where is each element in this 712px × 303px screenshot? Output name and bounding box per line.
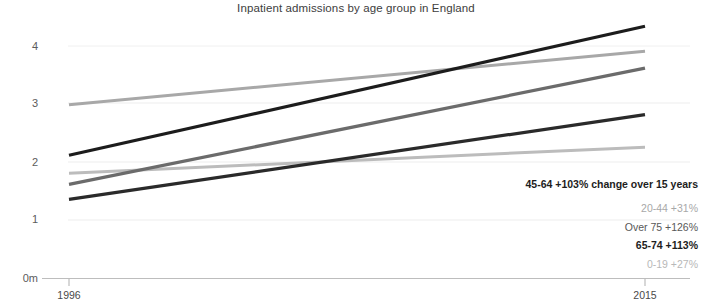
legend-label-65-74: 65-74 +113% <box>636 239 698 251</box>
y-tick-label-0m: 0m <box>2 273 38 284</box>
legend-item-over-75[interactable]: Over 75 +126% <box>520 222 706 233</box>
y-tick-label-3: 3 <box>2 98 38 109</box>
y-tick-label-2: 2 <box>2 157 38 168</box>
legend-label-0-19: 0-19 +27% <box>647 258 698 270</box>
legend-item-45-64[interactable]: 45-64 +103% change over 15 years <box>520 179 706 190</box>
legend-label-45-64: 45-64 +103% <box>526 178 589 190</box>
x-tick-label-1996: 1996 <box>39 290 99 301</box>
legend-item-65-74[interactable]: 65-74 +113% <box>520 240 706 251</box>
series-line-20-44 <box>69 51 645 104</box>
legend-label-over-75: Over 75 +126% <box>625 221 698 233</box>
legend-item-0-19[interactable]: 0-19 +27% <box>520 259 706 270</box>
legend-label-20-44: 20-44 +31% <box>641 202 698 214</box>
x-tick-label-2015: 2015 <box>615 290 675 301</box>
y-tick-label-1: 1 <box>2 214 38 225</box>
plot-area <box>0 0 712 303</box>
y-tick-label-4: 4 <box>2 41 38 52</box>
legend-item-20-44[interactable]: 20-44 +31% <box>520 203 706 214</box>
series-line-0-19 <box>69 147 645 173</box>
x-axis <box>42 279 690 287</box>
chart-container: Hospital admissions have risen sharply I… <box>0 0 712 303</box>
legend-note-45-64: change over 15 years <box>588 178 698 190</box>
